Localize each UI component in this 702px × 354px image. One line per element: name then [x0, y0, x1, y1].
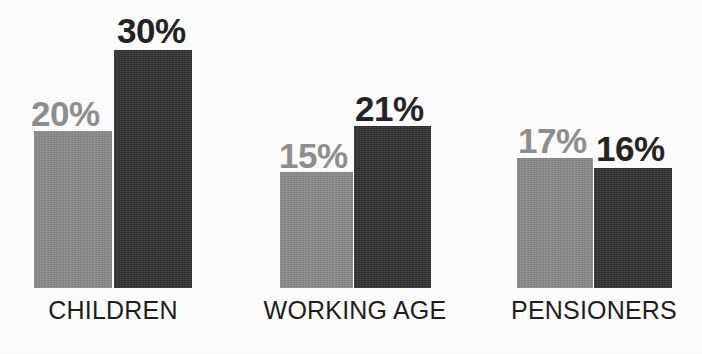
- value-label-children-dark: 30%: [117, 13, 186, 48]
- category-label-pensioners: PENSIONERS: [494, 297, 694, 324]
- value-label-pensioners-light: 17%: [518, 123, 587, 158]
- category-label-working-age: WORKING AGE: [255, 297, 455, 324]
- value-label-children-light: 20%: [31, 96, 100, 131]
- bar-pensioners-light: [517, 158, 593, 288]
- bar-working-age-dark: [354, 126, 431, 288]
- value-label-working-age-light: 15%: [279, 138, 348, 173]
- bar-pensioners-dark: [594, 168, 672, 288]
- value-label-pensioners-dark: 16%: [596, 131, 665, 166]
- bar-chart: 20% 30% CHILDREN 15% 21% WORKING AGE 17%…: [0, 0, 702, 354]
- value-label-working-age-dark: 21%: [355, 91, 424, 126]
- bar-children-dark: [114, 50, 192, 288]
- category-label-children: CHILDREN: [14, 297, 212, 324]
- bar-working-age-light: [280, 172, 353, 288]
- bar-children-light: [34, 131, 112, 288]
